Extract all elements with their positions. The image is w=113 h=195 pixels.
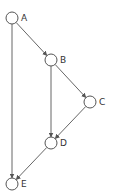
node-b: B [45, 54, 66, 66]
edge-c-d [55, 106, 86, 138]
node-a: A [6, 12, 28, 24]
node-d: D [45, 137, 67, 149]
node-label: A [21, 13, 28, 23]
node-label: B [60, 55, 66, 65]
graph-diagram: ABCDE [0, 0, 113, 195]
edge-d-e [16, 147, 47, 179]
node-circle [6, 12, 18, 24]
node-circle [84, 96, 96, 108]
edge-a-b [16, 22, 47, 55]
edges [12, 22, 86, 179]
edge-b-c [55, 64, 86, 97]
node-circle [6, 178, 18, 190]
node-label: C [99, 97, 105, 107]
node-circle [45, 137, 57, 149]
node-e: E [6, 178, 27, 190]
node-label: D [60, 138, 67, 148]
nodes: ABCDE [6, 12, 105, 190]
node-circle [45, 54, 57, 66]
node-label: E [21, 179, 27, 189]
node-c: C [84, 96, 105, 108]
